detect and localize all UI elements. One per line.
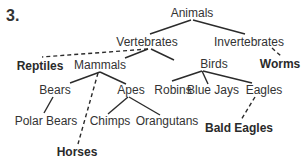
node-worms: Worms <box>260 57 300 71</box>
edge-vertebrates-to-mammals <box>125 49 148 58</box>
edge-bears-to-polar_bears <box>44 97 53 113</box>
node-horses: Horses <box>57 145 98 159</box>
node-polar-bears: Polar Bears <box>15 114 78 128</box>
node-orangutans: Orangutans <box>136 114 199 128</box>
taxonomy-tree-diagram: 3. Animals Vertebrates Invertebrates Rep… <box>0 0 308 167</box>
node-vertebrates: Vertebrates <box>116 35 177 49</box>
node-birds: Birds <box>200 57 227 71</box>
node-chimps: Chimps <box>90 114 131 128</box>
node-eagles: Eagles <box>246 83 283 97</box>
edge-mammals-to-horses <box>78 73 98 144</box>
edge-invertebrates-to-worms <box>272 48 281 56</box>
edge-birds-to-eagles <box>203 71 252 83</box>
node-invertebrates: Invertebrates <box>214 35 284 49</box>
node-apes: Apes <box>117 83 144 97</box>
node-bald-eagles: Bald Eagles <box>205 121 273 135</box>
edge-apes-to-orangutans <box>129 97 160 115</box>
edge-animals-to-vertebrates <box>150 20 191 34</box>
edge-vertebrates-to-birds <box>151 49 174 60</box>
edge-eagles-to-bald_eagles <box>241 97 255 120</box>
node-blue-jays: Blue Jays <box>187 83 239 97</box>
edge-birds-to-robins <box>172 71 202 81</box>
node-bears: Bears <box>39 83 70 97</box>
node-reptiles: Reptiles <box>17 59 64 73</box>
edge-animals-to-invertebrates <box>193 20 245 34</box>
node-mammals: Mammals <box>74 58 126 72</box>
node-animals: Animals <box>171 6 214 20</box>
edge-apes-to-chimps <box>108 97 128 114</box>
